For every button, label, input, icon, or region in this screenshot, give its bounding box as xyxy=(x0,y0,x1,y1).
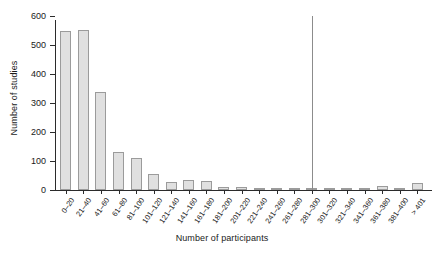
x-tick xyxy=(400,190,401,194)
y-tick-label: 100 xyxy=(31,156,46,166)
x-tick-label: 21–40 xyxy=(74,196,93,218)
x-tick xyxy=(365,190,366,194)
x-tick-label: 41–60 xyxy=(92,196,111,218)
y-axis-title: Number of studies xyxy=(9,55,19,141)
y-tick: 600 xyxy=(50,16,55,17)
y-tick-label: 300 xyxy=(31,98,46,108)
y-tick-label: 500 xyxy=(31,40,46,50)
y-tick: 300 xyxy=(50,103,55,104)
x-tick xyxy=(171,190,172,194)
plot-area xyxy=(57,16,426,190)
y-axis-line xyxy=(55,20,56,191)
x-tick xyxy=(277,190,278,194)
bar xyxy=(218,187,229,190)
bar xyxy=(377,186,388,190)
histogram-figure: Number of studies 0100200300400500600 0–… xyxy=(0,0,444,254)
x-tick xyxy=(417,190,418,194)
bar xyxy=(166,182,177,190)
bar xyxy=(95,92,106,190)
bar xyxy=(201,181,212,190)
x-tick xyxy=(347,190,348,194)
bar xyxy=(271,188,282,190)
x-axis-line xyxy=(55,190,432,191)
bar xyxy=(60,31,71,190)
x-tick xyxy=(83,190,84,194)
x-tick xyxy=(224,190,225,194)
x-axis-title: Number of participants xyxy=(0,233,444,243)
y-tick: 400 xyxy=(50,74,55,75)
bar xyxy=(254,188,265,190)
y-tick: 100 xyxy=(50,161,55,162)
x-tick xyxy=(329,190,330,194)
y-tick-label: 600 xyxy=(31,11,46,21)
divider-line-line xyxy=(312,16,313,190)
x-tick xyxy=(119,190,120,194)
bar xyxy=(148,174,159,190)
bar xyxy=(131,158,142,190)
y-tick: 500 xyxy=(50,45,55,46)
bar xyxy=(394,188,405,190)
bar xyxy=(341,188,352,190)
x-tick xyxy=(312,190,313,194)
x-tick xyxy=(154,190,155,194)
y-tick: 200 xyxy=(50,132,55,133)
x-tick xyxy=(259,190,260,194)
bar xyxy=(78,30,89,190)
y-tick-label: 0 xyxy=(41,185,46,195)
x-tick xyxy=(101,190,102,194)
x-tick xyxy=(66,190,67,194)
bar xyxy=(324,188,335,190)
bar xyxy=(113,152,124,190)
x-tick xyxy=(382,190,383,194)
y-tick: 0 xyxy=(50,190,55,191)
x-tick xyxy=(206,190,207,194)
x-tick xyxy=(294,190,295,194)
bar xyxy=(236,187,247,190)
x-tick-label: > 401 xyxy=(409,196,427,217)
x-tick xyxy=(189,190,190,194)
bar xyxy=(359,188,370,190)
bar xyxy=(289,188,300,190)
x-tick xyxy=(136,190,137,194)
y-tick-label: 400 xyxy=(31,69,46,79)
x-tick xyxy=(242,190,243,194)
bar xyxy=(183,180,194,190)
y-tick-label: 200 xyxy=(31,127,46,137)
bar xyxy=(412,183,423,190)
